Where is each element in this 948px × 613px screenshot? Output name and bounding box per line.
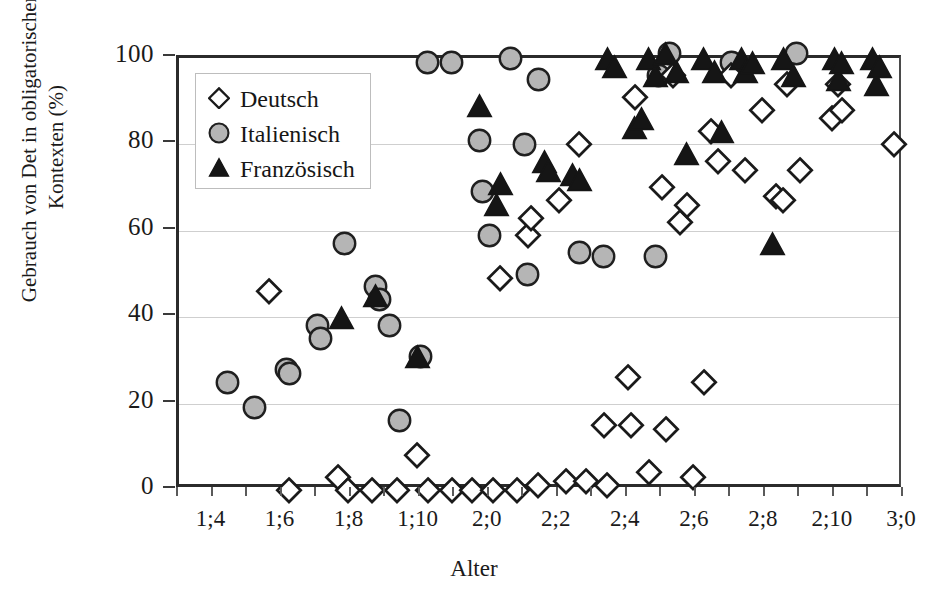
- x-tick-label: 1;8: [314, 507, 384, 531]
- data-point-diamond: [618, 412, 644, 439]
- data-point-diamond: [705, 148, 731, 175]
- data-point-circle: [215, 370, 240, 395]
- x-tick-mark: [659, 487, 661, 496]
- data-point-triangle: [601, 54, 628, 79]
- data-point-diamond: [674, 192, 700, 219]
- data-point-circle: [332, 231, 357, 256]
- data-point-circle: [308, 326, 333, 351]
- legend-item-label: Deutsch: [240, 87, 319, 111]
- x-tick-mark: [314, 487, 316, 496]
- data-point-triangle: [701, 59, 728, 84]
- data-point-triangle: [404, 344, 431, 369]
- y-tick-mark: [163, 313, 175, 315]
- data-point-triangle: [866, 54, 893, 79]
- legend-item-label: Französisch: [240, 157, 355, 181]
- x-axis-title: Alter: [0, 556, 948, 582]
- data-point-triangle: [673, 141, 700, 166]
- x-tick-label: 2;10: [797, 507, 867, 531]
- data-point-circle: [277, 361, 302, 386]
- data-point-diamond: [649, 174, 675, 201]
- x-tick-mark: [625, 487, 627, 496]
- y-tick-label: 80: [102, 127, 154, 152]
- data-point-circle: [591, 244, 616, 269]
- data-point-diamond: [404, 442, 430, 469]
- data-point-diamond: [749, 97, 775, 124]
- data-point-circle: [643, 244, 668, 269]
- x-tick-mark: [590, 487, 592, 496]
- data-point-diamond: [787, 157, 813, 184]
- x-tick-mark: [383, 487, 385, 496]
- legend-item-triangle[interactable]: Französisch: [208, 151, 370, 186]
- y-tick-mark: [163, 227, 175, 229]
- data-point-diamond: [384, 477, 410, 504]
- data-point-diamond: [732, 157, 758, 184]
- x-tick-mark: [797, 487, 799, 496]
- data-point-diamond: [653, 416, 679, 443]
- data-point-diamond: [615, 364, 641, 391]
- x-tick-mark: [556, 487, 558, 496]
- x-tick-label: 2;8: [728, 507, 798, 531]
- data-point-diamond: [525, 472, 551, 499]
- data-point-triangle: [483, 192, 510, 217]
- data-point-diamond: [591, 412, 617, 439]
- data-point-circle: [439, 50, 464, 75]
- y-tick-mark: [163, 54, 175, 56]
- plot-area: Deutsch Italienisch Französisch: [176, 55, 901, 487]
- x-tick-label: 2;6: [659, 507, 729, 531]
- x-tick-mark: [176, 487, 178, 496]
- x-tick-label: 1;10: [383, 507, 453, 531]
- data-point-circle: [526, 67, 551, 92]
- y-axis-title-line1: Gebrauch von Det in obligatorischen: [17, 0, 41, 302]
- x-tick-mark: [280, 487, 282, 496]
- y-tick-mark: [163, 486, 175, 488]
- y-tick-mark: [163, 400, 175, 402]
- x-tick-mark: [728, 487, 730, 496]
- y-tick-label: 100: [102, 41, 154, 66]
- data-point-circle: [242, 395, 267, 420]
- data-point-diamond: [594, 472, 620, 499]
- data-point-triangle: [566, 167, 593, 192]
- data-point-circle: [498, 46, 523, 71]
- x-tick-mark: [452, 487, 454, 496]
- x-tick-label: 3;0: [866, 507, 936, 531]
- x-tick-label: 2;4: [590, 507, 660, 531]
- gridline: [179, 404, 899, 405]
- x-tick-mark: [521, 487, 523, 496]
- gridline: [179, 317, 899, 318]
- data-point-diamond: [480, 477, 506, 504]
- y-axis-title: Gebrauch von Det in obligatorischen Kont…: [16, 0, 70, 362]
- x-tick-mark: [763, 487, 765, 496]
- x-tick-label: 1;6: [245, 507, 315, 531]
- data-point-triangle: [828, 50, 855, 75]
- data-point-triangle: [780, 63, 807, 88]
- data-point-triangle: [362, 283, 389, 308]
- data-point-diamond: [487, 265, 513, 292]
- data-point-triangle: [328, 305, 355, 330]
- data-point-diamond: [566, 131, 592, 158]
- x-tick-label: 1;4: [176, 507, 246, 531]
- data-point-circle: [567, 240, 592, 265]
- x-tick-mark: [349, 487, 351, 496]
- data-point-diamond: [770, 187, 796, 214]
- data-point-triangle: [739, 50, 766, 75]
- x-tick-label: 2;0: [452, 507, 522, 531]
- diamond-icon: [208, 87, 231, 110]
- data-point-circle: [415, 50, 440, 75]
- legend-item-circle[interactable]: Italienisch: [208, 116, 370, 151]
- data-point-diamond: [518, 205, 544, 232]
- data-point-circle: [467, 128, 492, 153]
- legend-item-diamond[interactable]: Deutsch: [208, 81, 370, 116]
- x-tick-mark: [487, 487, 489, 496]
- x-tick-mark: [866, 487, 868, 496]
- data-point-triangle: [487, 171, 514, 196]
- data-point-diamond: [636, 459, 662, 486]
- x-tick-mark: [694, 487, 696, 496]
- x-tick-mark: [418, 487, 420, 496]
- y-tick-label: 40: [102, 300, 154, 325]
- y-tick-label: 60: [102, 214, 154, 239]
- triangle-icon: [208, 157, 231, 180]
- data-point-circle: [387, 408, 412, 433]
- legend: Deutsch Italienisch Französisch: [195, 73, 371, 189]
- data-point-diamond: [829, 97, 855, 124]
- y-tick-label: 0: [102, 473, 154, 498]
